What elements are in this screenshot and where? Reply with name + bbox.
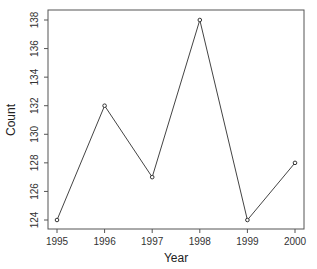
data-line [57, 20, 295, 220]
y-axis: 124126128130132134136138 [29, 11, 48, 228]
x-tick-label: 1997 [141, 236, 164, 247]
x-axis-title: Year [164, 251, 188, 265]
data-point-marker [293, 161, 297, 165]
y-axis-title: Count [4, 103, 18, 136]
y-tick-label: 132 [29, 97, 40, 114]
y-tick-label: 138 [29, 11, 40, 28]
x-tick-label: 1999 [236, 236, 259, 247]
y-tick-label: 124 [29, 211, 40, 228]
y-tick-label: 130 [29, 126, 40, 143]
x-tick-label: 1996 [93, 236, 116, 247]
y-tick-label: 134 [29, 68, 40, 85]
data-markers [55, 18, 297, 222]
line-chart: 124126128130132134136138 199519961997199… [0, 0, 317, 269]
data-point-marker [103, 104, 107, 108]
x-tick-label: 1995 [46, 236, 69, 247]
y-tick-label: 128 [29, 154, 40, 171]
data-point-marker [150, 175, 154, 179]
data-point-marker [198, 18, 202, 22]
data-point-marker [246, 218, 250, 222]
x-tick-label: 1998 [189, 236, 212, 247]
y-tick-label: 136 [29, 40, 40, 57]
data-point-marker [55, 218, 59, 222]
x-tick-label: 2000 [284, 236, 307, 247]
x-axis: 199519961997199819992000 [46, 229, 307, 247]
plot-box [48, 10, 304, 229]
y-tick-label: 126 [29, 183, 40, 200]
